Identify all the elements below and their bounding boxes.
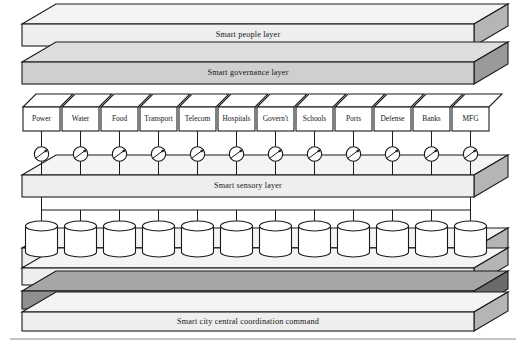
gauge-hub-dot — [161, 150, 164, 153]
gauge-hub-dot — [122, 150, 125, 153]
database-cylinder-icon — [104, 221, 136, 231]
layer-top-face — [22, 271, 508, 291]
sector-label: Telecom — [185, 114, 211, 123]
sector-boxes-group: PowerWaterFoodTransportTelecomHospitalsG… — [23, 94, 502, 131]
layer-stack-group: Smart people layerSmart governance layer… — [22, 4, 508, 331]
layer-label-central-coordination-layer: Smart city central coordination command — [177, 317, 319, 326]
database-cylinder-icon — [338, 221, 370, 231]
database-cylinder-3[interactable] — [143, 210, 175, 257]
database-cylinder-11[interactable] — [455, 210, 487, 257]
gauge-hub-dot — [395, 150, 398, 153]
gauge-hub-dot — [83, 150, 86, 153]
smart-city-architecture-diagram: Smart people layerSmart governance layer… — [0, 0, 526, 346]
gauge-hub-dot — [44, 150, 47, 153]
database-cylinder-5[interactable] — [221, 210, 253, 257]
layer-slab-central-coordination-layer[interactable]: Smart city central coordination command — [22, 292, 508, 331]
sector-label: Banks — [422, 114, 441, 123]
database-cylinder-1[interactable] — [65, 210, 97, 257]
database-cylinder-icon — [455, 221, 487, 231]
layer-top-face — [22, 42, 508, 62]
sector-label: Hospitals — [223, 114, 251, 123]
gauge-hub-dot — [278, 150, 281, 153]
gauge-hub-dot — [473, 150, 476, 153]
gauge-hub-dot — [239, 150, 242, 153]
gauge-hub-dot — [434, 150, 437, 153]
database-cylinder-icon — [416, 221, 448, 231]
gauge-hub-dot — [317, 150, 320, 153]
gauge-hub-dot — [356, 150, 359, 153]
sector-label: Transport — [144, 114, 173, 123]
database-cylinder-icon — [143, 221, 175, 231]
layer-label-smart-sensory-layer: Smart sensory layer — [214, 181, 282, 190]
database-cylinder-icon — [377, 221, 409, 231]
database-cylinder-9[interactable] — [377, 210, 409, 257]
diagram-canvas: Smart people layerSmart governance layer… — [0, 0, 526, 346]
layer-top-face — [22, 292, 508, 312]
database-cylinder-icon — [221, 221, 253, 231]
database-cylinder-0[interactable] — [26, 210, 58, 257]
layer-slab-smart-sensory-layer[interactable]: Smart sensory layer — [22, 155, 508, 197]
layer-label-smart-governance-layer: Smart governance layer — [207, 68, 288, 77]
database-cylinder-7[interactable] — [299, 210, 331, 257]
database-cylinder-icon — [260, 221, 292, 231]
database-cylinder-2[interactable] — [104, 210, 136, 257]
gauge-hub-dot — [200, 150, 203, 153]
sector-label: Water — [72, 114, 90, 123]
layer-slab-smart-people-layer[interactable]: Smart people layer — [22, 4, 508, 46]
database-cylinder-icon — [26, 221, 58, 231]
database-cylinder-icon — [299, 221, 331, 231]
sector-label: Schools — [303, 114, 327, 123]
layer-slab-smart-governance-layer[interactable]: Smart governance layer — [22, 42, 508, 84]
database-cylinder-6[interactable] — [260, 210, 292, 257]
sector-label: Food — [112, 114, 128, 123]
layer-top-face — [22, 4, 508, 24]
sector-label: Defense — [380, 114, 405, 123]
sector-label: Ports — [346, 114, 361, 123]
layer-label-smart-people-layer: Smart people layer — [216, 30, 281, 39]
database-cylinder-icon — [182, 221, 214, 231]
database-cylinder-4[interactable] — [182, 210, 214, 257]
database-cylinder-10[interactable] — [416, 210, 448, 257]
sector-box-mfg[interactable]: MFG — [452, 94, 502, 131]
sector-label: Govern't — [263, 114, 289, 123]
database-cylinder-8[interactable] — [338, 210, 370, 257]
sector-label: Power — [32, 114, 51, 123]
database-cylinder-icon — [65, 221, 97, 231]
sector-label: MFG — [462, 114, 479, 123]
